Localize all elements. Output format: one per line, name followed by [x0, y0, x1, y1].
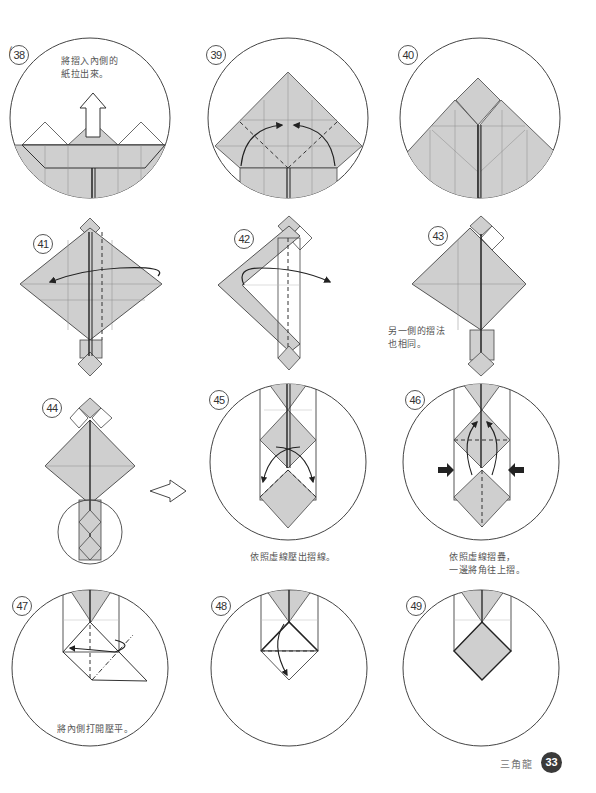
step-number-40: 40	[398, 45, 418, 65]
step-number-38: 38	[9, 45, 29, 65]
step-number-43: 43	[428, 226, 448, 246]
step-number-47: 47	[12, 596, 32, 616]
page-number-badge: 33	[541, 752, 562, 773]
step-number-39: 39	[206, 45, 226, 65]
step-39-diagram	[208, 38, 368, 218]
step-47-instruction: 將內側打開壓平。	[57, 723, 133, 736]
step-48-diagram	[211, 590, 367, 746]
step-number-44: 44	[42, 398, 62, 418]
step-46-instruction: 依照虛線摺疊， 一邊將角往上摺。	[449, 551, 525, 577]
step-43-instruction: 另一側的摺法 也相同。	[388, 325, 445, 351]
step-46-diagram	[403, 380, 559, 540]
step-number-46: 46	[405, 390, 425, 410]
step-number-42: 42	[234, 229, 254, 249]
step-number-48: 48	[211, 596, 231, 616]
step-number-41: 41	[33, 234, 53, 254]
zoom-in-arrow-icon	[150, 480, 186, 502]
step-number-49: 49	[406, 596, 426, 616]
page-title: 三角龍	[500, 756, 533, 771]
step-49-diagram	[403, 590, 559, 746]
step-40-diagram	[400, 38, 560, 210]
origami-diagram-page	[0, 0, 596, 793]
step-45-diagram	[210, 380, 366, 540]
step-38-instruction: 將摺入內側的 紙拉出來。	[61, 55, 118, 81]
step-45-instruction: 依照虛線壓出摺線。	[250, 551, 336, 564]
step-number-45: 45	[209, 390, 229, 410]
step-44-diagram	[45, 398, 186, 564]
